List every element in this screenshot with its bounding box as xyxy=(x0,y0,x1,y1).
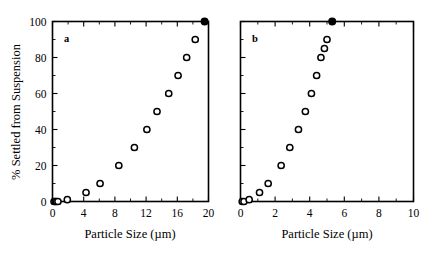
panel-a-x-axis-title: Particle Size (µm) xyxy=(84,227,175,241)
data-point-open xyxy=(302,108,308,114)
y-tick-label: 40 xyxy=(35,124,47,136)
x-tick-label: 4 xyxy=(81,207,87,219)
data-point-open xyxy=(131,144,137,150)
data-point-open xyxy=(324,36,330,42)
data-point-open xyxy=(166,90,172,96)
panel-b-points xyxy=(239,18,335,205)
x-tick-label: 16 xyxy=(172,207,184,219)
data-point-open xyxy=(184,54,190,60)
x-tick-label: 0 xyxy=(50,207,56,219)
y-tick-label: 20 xyxy=(35,160,47,172)
data-point-open xyxy=(321,45,327,51)
panel-a: a 048121620 020406080100 Particle Size (… xyxy=(29,16,214,242)
x-tick-label: 6 xyxy=(341,207,347,219)
data-point-open xyxy=(308,90,314,96)
x-tick-label: 10 xyxy=(408,207,420,219)
data-point-open xyxy=(175,72,181,78)
x-tick-label: 8 xyxy=(376,207,382,219)
y-tick-label: 0 xyxy=(41,196,47,208)
y-tick-label: 100 xyxy=(29,16,47,28)
panel-b: b 0246810 Particle Size (µm) xyxy=(238,18,420,241)
panel-a-letter: a xyxy=(64,33,70,44)
data-point-open xyxy=(265,180,271,186)
y-tick-label: 80 xyxy=(35,52,47,64)
data-point-open xyxy=(55,198,61,204)
scatter-figure: % Settled from Suspension a 048121620 02… xyxy=(0,0,440,253)
data-point-open xyxy=(192,36,198,42)
panel-b-x-axis-title: Particle Size (µm) xyxy=(281,227,372,241)
x-tick-label: 8 xyxy=(112,207,118,219)
data-point-open xyxy=(64,197,70,203)
x-tick-label: 2 xyxy=(272,207,278,219)
data-point-open xyxy=(144,126,150,132)
panel-b-xticklabels: 0246810 xyxy=(238,207,420,219)
x-tick-label: 0 xyxy=(238,207,244,219)
x-tick-label: 12 xyxy=(140,207,152,219)
panel-a-yticklabels: 020406080100 xyxy=(29,16,47,208)
data-point-open xyxy=(295,126,301,132)
panel-b-letter: b xyxy=(252,33,258,44)
data-point-open xyxy=(278,162,284,168)
data-point-open xyxy=(116,162,122,168)
figure-container: % Settled from Suspension a 048121620 02… xyxy=(0,0,440,253)
data-point-open xyxy=(97,180,103,186)
data-point-open xyxy=(246,197,252,203)
data-point-open xyxy=(318,54,324,60)
panel-a-points xyxy=(51,18,208,205)
data-point-filled xyxy=(201,18,208,25)
data-point-open xyxy=(287,144,293,150)
panel-a-xticklabels: 048121620 xyxy=(50,207,215,219)
data-point-open xyxy=(83,189,89,195)
panel-a-frame xyxy=(53,22,209,202)
y-tick-label: 60 xyxy=(35,88,47,100)
data-point-open xyxy=(256,189,262,195)
data-point-open xyxy=(154,108,160,114)
x-tick-label: 4 xyxy=(307,207,313,219)
y-axis-title: % Settled from Suspension xyxy=(9,43,23,180)
panel-a-xticks xyxy=(53,22,209,202)
data-point-filled xyxy=(329,18,336,25)
data-point-open xyxy=(314,72,320,78)
x-tick-label: 20 xyxy=(203,207,215,219)
